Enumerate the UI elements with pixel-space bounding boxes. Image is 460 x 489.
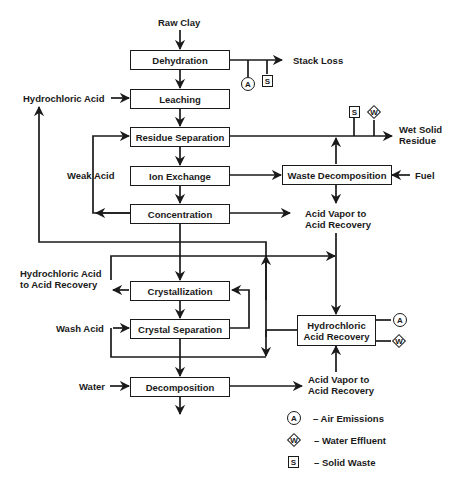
fuel-label: Fuel [415,170,435,181]
crystal-separation-box: Crystal Separation [130,319,230,339]
legend-water-label: – Water Effluent [314,435,386,446]
legend-water-icon: W [287,433,301,447]
water-effluent-icon: W [392,334,406,348]
crystallization-box: Crystallization [130,281,230,301]
solid-waste-icon: S [349,106,360,118]
dehydration-box: Dehydration [130,50,230,70]
air-emission-icon: A [393,313,407,327]
legend-solid-label: – Solid Waste [314,457,375,468]
acid-vapor-2-label: Acid Vapor to Acid Recovery [308,374,374,396]
legend-air-label: – Air Emissions [313,413,384,424]
raw-clay-label: Raw Clay [158,17,200,28]
stack-loss-label: Stack Loss [293,55,343,66]
leaching-box: Leaching [130,89,230,109]
legend-air-icon: A [287,411,301,425]
air-emission-icon: A [241,77,255,91]
hcl-recovery-box: Hydrochloric Acid Recovery [297,315,376,346]
legend-solid-icon: S [288,456,299,468]
water-effluent-icon: W [367,105,381,119]
hydrochloric-acid-input-label: Hydrochloric Acid [23,93,104,104]
concentration-box: Concentration [130,204,230,224]
residue-separation-box: Residue Separation [130,127,230,147]
wash-acid-label: Wash Acid [56,323,104,334]
decomposition-box: Decomposition [130,377,230,397]
weak-acid-label: Weak Acid [67,170,115,181]
wet-solid-residue-label: Wet Solid Residue [399,124,442,146]
hcl-recovery-line1: Hydrochloric [307,320,366,331]
hcl-recovery-line2: Acid Recovery [303,331,369,342]
flow-lines [0,0,460,489]
water-label: Water [79,381,105,392]
ion-exchange-box: Ion Exchange [130,166,230,186]
waste-decomposition-box: Waste Decomposition [282,165,392,185]
hcl-to-recovery-label: Hydrochloric Acid to Acid Recovery [20,268,101,290]
solid-waste-icon: S [262,75,273,87]
acid-vapor-1-label: Acid Vapor to Acid Recovery [305,208,371,230]
